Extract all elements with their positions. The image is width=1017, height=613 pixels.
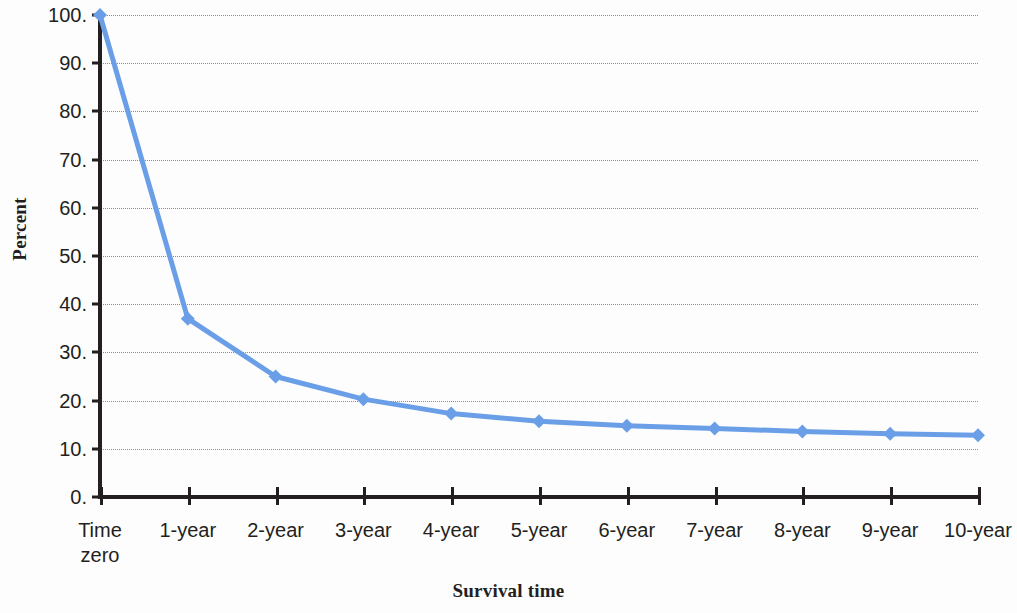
x-axis-tick-label-line: 10-year — [913, 518, 1017, 543]
x-axis-tick-mark — [802, 487, 805, 505]
y-axis-tick-label: 40. — [25, 293, 87, 316]
survival-curve-chart: Percent 0.10.20.30.40.50.60.70.80.90.100… — [0, 0, 1017, 613]
y-axis-tick-label: 50. — [25, 245, 87, 268]
x-axis-tick-mark — [627, 487, 630, 505]
y-axis-tick-label: 100. — [25, 4, 87, 27]
x-axis-tick-label: 10-year — [913, 518, 1017, 543]
gridline — [100, 15, 978, 16]
gridline — [100, 352, 978, 353]
gridline — [100, 111, 978, 112]
gridline — [100, 401, 978, 402]
x-axis-tick-mark — [363, 487, 366, 505]
y-axis-tick-label: 10. — [25, 437, 87, 460]
y-axis-tick-label: 90. — [25, 52, 87, 75]
gridline — [100, 304, 978, 305]
gridline — [100, 63, 978, 64]
x-axis-tick-mark — [276, 487, 279, 505]
y-axis-tick-label: 60. — [25, 196, 87, 219]
x-axis-tick-mark — [715, 487, 718, 505]
x-axis-tick-mark — [978, 487, 981, 505]
gridline — [100, 256, 978, 257]
gridline — [100, 449, 978, 450]
y-axis-tick-label: 70. — [25, 148, 87, 171]
gridline — [100, 208, 978, 209]
x-axis-tick-mark — [539, 487, 542, 505]
gridline — [100, 160, 978, 161]
y-axis-tick-label: 80. — [25, 100, 87, 123]
y-axis-tick-label: 30. — [25, 341, 87, 364]
x-axis-tick-mark — [100, 487, 103, 505]
x-axis-tick-mark — [451, 487, 454, 505]
y-axis-tick-label: 0. — [25, 486, 87, 509]
y-axis-title: Percent — [9, 179, 31, 279]
y-axis-line — [98, 13, 102, 499]
y-axis-tick-label: 20. — [25, 389, 87, 412]
x-axis-tick-mark — [188, 487, 191, 505]
x-axis-title: Survival time — [0, 580, 1017, 602]
plot-area — [100, 15, 978, 497]
x-axis-tick-mark — [890, 487, 893, 505]
x-axis-tick-label-line: zero — [35, 543, 165, 568]
